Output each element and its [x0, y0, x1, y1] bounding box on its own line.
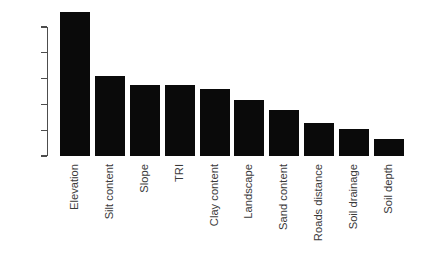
x-axis-label-slot: Clay content	[197, 158, 232, 270]
bar	[200, 89, 230, 156]
bar	[130, 85, 160, 156]
x-axis-label: Clay content	[209, 164, 220, 226]
bar	[60, 12, 90, 156]
bar	[304, 123, 334, 156]
bar	[165, 85, 195, 156]
bar	[339, 129, 369, 156]
x-axis-label: Sand content	[279, 164, 290, 230]
x-axis-label: Soil depth	[383, 164, 394, 214]
bar	[234, 100, 264, 156]
bar	[269, 110, 299, 156]
bar-series	[0, 0, 423, 158]
x-axis-label: Silt content	[105, 164, 116, 219]
x-axis-label: Slope	[139, 164, 150, 193]
x-axis-label: Landscape	[244, 164, 255, 219]
x-axis-label-slot: Sand content	[267, 158, 302, 270]
x-axis-label-slot: Slope	[128, 158, 163, 270]
x-axis-label-slot: Elevation	[58, 158, 93, 270]
x-axis-label: Roads distance	[313, 164, 324, 241]
x-axis-label: TRI	[174, 164, 185, 182]
x-axis-label-slot: Silt content	[93, 158, 128, 270]
x-axis-label: Elevation	[70, 164, 81, 210]
plot-area: 0510152025	[0, 0, 423, 158]
x-axis-label-slot: Landscape	[232, 158, 267, 270]
x-axis-label-slot: Roads distance	[302, 158, 337, 270]
bar-chart: 0510152025 ElevationSilt contentSlopeTRI…	[0, 0, 423, 270]
bar	[95, 76, 125, 156]
x-axis-labels: ElevationSilt contentSlopeTRIClay conten…	[0, 158, 423, 270]
x-axis-label: Soil drainage	[348, 164, 359, 229]
x-axis-label-slot: TRI	[162, 158, 197, 270]
x-axis-label-slot: Soil depth	[371, 158, 406, 270]
bar	[374, 139, 404, 156]
x-axis-label-slot: Soil drainage	[336, 158, 371, 270]
